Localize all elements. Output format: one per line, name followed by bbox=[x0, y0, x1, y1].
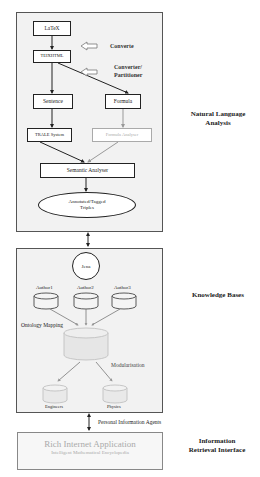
diagram-connectors bbox=[0, 0, 260, 477]
